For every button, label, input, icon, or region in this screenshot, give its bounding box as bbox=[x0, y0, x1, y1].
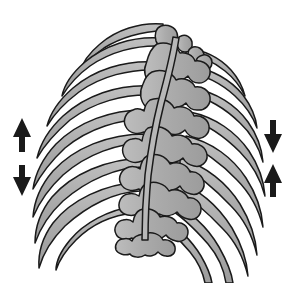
figure-root: Rib cage and thoracic spine, posterior v… bbox=[0, 0, 293, 283]
rib-cage-diagram bbox=[0, 0, 293, 283]
